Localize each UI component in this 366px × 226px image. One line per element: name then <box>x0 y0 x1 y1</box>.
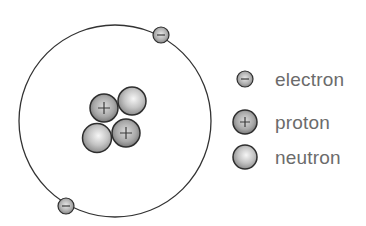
legend-label-proton: proton <box>275 112 330 133</box>
legend: electron proton neutron <box>233 69 344 169</box>
electron-particle <box>58 198 74 214</box>
legend-item-electron: electron <box>237 69 344 90</box>
neutron-particle <box>83 124 112 153</box>
neutron-icon <box>233 145 257 169</box>
legend-label-electron: electron <box>275 69 344 90</box>
nucleus <box>83 87 147 153</box>
legend-item-proton: proton <box>233 110 330 134</box>
neutron-particle <box>118 87 146 115</box>
legend-item-neutron: neutron <box>233 145 341 169</box>
electron-particle <box>153 27 169 43</box>
proton-particle <box>112 119 140 147</box>
atom-diagram: electron proton neutron <box>0 0 366 226</box>
proton-particle <box>90 94 118 122</box>
electron-orbit <box>19 25 211 217</box>
legend-label-neutron: neutron <box>275 147 341 168</box>
